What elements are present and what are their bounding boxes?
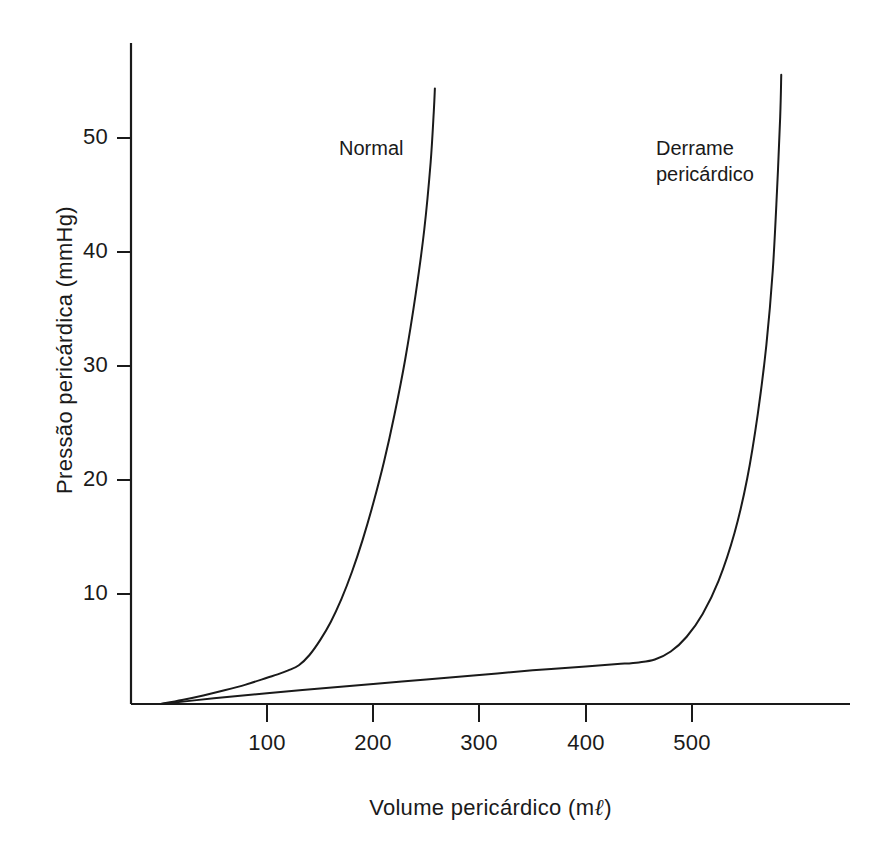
x-tick-label-100: 100: [227, 730, 307, 756]
x-tick-label-300: 300: [439, 730, 519, 756]
series-annotation-effusion: Derrame pericárdico: [656, 136, 754, 187]
y-tick-marks: [117, 138, 131, 594]
x-axis-title: Volume pericárdico (mℓ): [131, 795, 850, 821]
curve-normal: [161, 88, 435, 704]
x-tick-label-500: 500: [652, 730, 732, 756]
x-axis-title-suffix: ): [604, 795, 612, 820]
x-tick-label-400: 400: [546, 730, 626, 756]
series-annotation-effusion-line2: pericárdico: [656, 162, 754, 188]
x-tick-label-200: 200: [333, 730, 413, 756]
series-annotation-normal-line1: Normal: [339, 136, 403, 162]
series-annotation-effusion-line1: Derrame: [656, 136, 754, 162]
x-tick-marks: [267, 704, 692, 722]
series-annotation-normal: Normal: [339, 136, 403, 162]
chart-figure: 50 40 30 20 10 100 200 300 400 500 Norma…: [0, 0, 891, 847]
x-axis-title-prefix: Volume pericárdico (m: [369, 795, 594, 820]
x-axis-title-ell-glyph: ℓ: [594, 795, 604, 820]
y-axis-title: Pressão pericárdica (mmHg): [52, 80, 86, 620]
plot-area: [0, 0, 891, 847]
